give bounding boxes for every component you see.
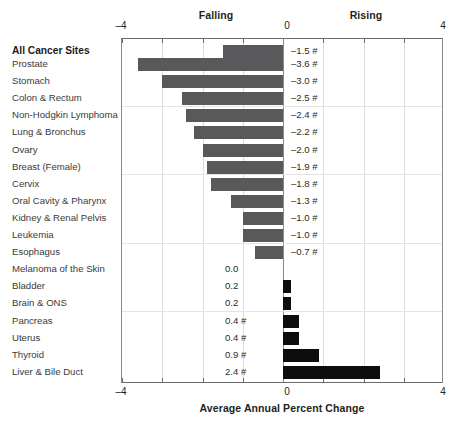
category-label: Stomach <box>12 75 120 86</box>
x-axis-tick-mark <box>243 378 244 382</box>
category-label: Ovary <box>12 144 120 155</box>
horizontal-gridline <box>122 106 442 107</box>
bar <box>243 229 283 242</box>
bar-value-label: –1.0 # <box>291 212 318 223</box>
horizontal-gridline <box>122 243 442 244</box>
bar-value-label: 0.4 # <box>225 332 283 343</box>
bar-value-label: 0.0 <box>225 263 283 274</box>
category-label: Colon & Rectum <box>12 92 120 103</box>
bar <box>211 178 283 191</box>
category-label: Bladder <box>12 280 120 291</box>
x-axis-tick-mark <box>203 378 204 382</box>
vertical-gridline <box>364 39 365 382</box>
bar <box>138 58 283 71</box>
bar-value-label: 2.4 # <box>225 366 283 377</box>
bar <box>283 297 291 310</box>
bar <box>283 315 299 328</box>
x-axis-tick-mark <box>162 39 163 43</box>
x-axis-tick-mark <box>404 378 405 382</box>
bar <box>283 366 380 379</box>
category-label: Kidney & Renal Pelvis <box>12 212 120 223</box>
x-axis-top-tick-label-max: 4 <box>431 20 455 31</box>
bar-value-label: –1.9 # <box>291 161 318 172</box>
x-axis-tick-mark <box>122 378 123 382</box>
category-label: Non-Hodgkin Lymphoma <box>12 109 120 120</box>
category-label: Thyroid <box>12 349 120 360</box>
category-label: Liver & Bile Duct <box>12 366 120 377</box>
x-axis-tick-mark <box>323 39 324 43</box>
category-label: Cervix <box>12 178 120 189</box>
x-axis-tick-mark <box>162 378 163 382</box>
bar-value-label: –1.5 # <box>291 45 318 56</box>
category-label: Prostate <box>12 58 120 69</box>
rising-direction-label: Rising <box>336 9 396 21</box>
bar-value-label: –3.6 # <box>291 58 318 69</box>
bar <box>223 45 283 58</box>
category-label: All Cancer Sites <box>12 45 120 56</box>
bar-value-label: –1.8 # <box>291 178 318 189</box>
category-label: Leukemia <box>12 229 120 240</box>
bar-value-label: –2.0 # <box>291 144 318 155</box>
category-label: Uterus <box>12 332 120 343</box>
bar-value-label: 0.9 # <box>225 349 283 360</box>
x-axis-tick-mark <box>243 39 244 43</box>
bar-value-label: –3.0 # <box>291 75 318 86</box>
vertical-gridline <box>243 39 244 382</box>
bar <box>203 144 284 157</box>
average-annual-percent-change-chart: Falling Rising –4 0 4 –4 0 4 Average Ann… <box>0 0 455 426</box>
bar <box>283 332 299 345</box>
category-label: Breast (Female) <box>12 161 120 172</box>
bar-value-label: –0.7 # <box>291 246 318 257</box>
bar-value-label: –2.5 # <box>291 92 318 103</box>
x-axis-tick-mark <box>404 39 405 43</box>
bar-value-label: 0.2 <box>225 297 283 308</box>
horizontal-gridline <box>122 174 442 175</box>
x-axis-bottom-tick-label-min: –4 <box>109 386 133 397</box>
category-label: Lung & Bronchus <box>12 126 120 137</box>
x-axis-bottom-tick-label-zero: 0 <box>275 386 299 397</box>
x-axis-title: Average Annual Percent Change <box>121 402 443 414</box>
vertical-gridline <box>162 39 163 382</box>
x-axis-tick-mark <box>203 39 204 43</box>
category-label: Brain & ONS <box>12 297 120 308</box>
bar <box>243 212 283 225</box>
category-label: Oral Cavity & Pharynx <box>12 195 120 206</box>
falling-direction-label: Falling <box>186 9 246 21</box>
category-label: Melanoma of the Skin <box>12 263 120 274</box>
horizontal-gridline <box>122 311 442 312</box>
x-axis-tick-mark <box>122 39 123 43</box>
x-axis-top-tick-label-zero: 0 <box>275 20 299 31</box>
category-label: Pancreas <box>12 315 120 326</box>
x-axis-top-tick-label-min: –4 <box>109 20 133 31</box>
bar-value-label: 0.4 # <box>225 315 283 326</box>
bar-value-label: –2.2 # <box>291 126 318 137</box>
bar <box>255 246 283 259</box>
vertical-gridline <box>323 39 324 382</box>
zero-reference-line <box>283 39 284 382</box>
vertical-gridline <box>404 39 405 382</box>
bar-value-label: –1.3 # <box>291 195 318 206</box>
bar <box>194 126 283 139</box>
category-label: Esophagus <box>12 246 120 257</box>
bar <box>207 161 283 174</box>
x-axis-bottom-tick-label-max: 4 <box>431 386 455 397</box>
bar <box>283 280 291 293</box>
bar-value-label: –1.0 # <box>291 229 318 240</box>
x-axis-tick-mark <box>364 39 365 43</box>
bar <box>182 92 283 105</box>
bar <box>186 109 283 122</box>
bar <box>231 195 283 208</box>
bar-value-label: –2.4 # <box>291 109 318 120</box>
bar <box>162 75 283 88</box>
vertical-gridline <box>203 39 204 382</box>
bar-value-label: 0.2 <box>225 280 283 291</box>
bar <box>283 349 319 362</box>
